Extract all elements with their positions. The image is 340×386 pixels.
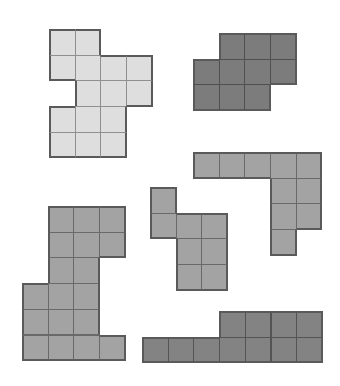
grid-cell bbox=[219, 84, 246, 111]
grid-cell bbox=[270, 33, 297, 60]
grid-cell bbox=[73, 257, 100, 284]
grid-cell bbox=[193, 337, 220, 364]
grid-cell bbox=[219, 33, 246, 60]
grid-cell bbox=[193, 84, 220, 111]
grid-cell bbox=[176, 264, 203, 291]
grid-cell bbox=[75, 55, 102, 82]
grid-cell bbox=[126, 80, 153, 107]
grid-cell bbox=[126, 55, 153, 82]
grid-cell bbox=[48, 257, 75, 284]
grid-cell bbox=[270, 178, 297, 205]
grid-cell bbox=[48, 335, 75, 362]
grid-cell bbox=[73, 283, 100, 310]
grid-cell bbox=[201, 213, 228, 240]
grid-cell bbox=[75, 106, 102, 133]
grid-cell bbox=[75, 132, 102, 159]
grid-cell bbox=[270, 229, 297, 256]
grid-cell bbox=[271, 311, 298, 338]
grid-cell bbox=[142, 337, 169, 364]
grid-cell bbox=[176, 213, 203, 240]
grid-cell bbox=[75, 80, 102, 107]
grid-cell bbox=[22, 309, 49, 336]
grid-cell bbox=[150, 187, 177, 214]
grid-cell bbox=[176, 238, 203, 265]
grid-cell bbox=[193, 59, 220, 86]
grid-cell bbox=[49, 106, 76, 133]
grid-cell bbox=[244, 84, 271, 111]
grid-cell bbox=[99, 232, 126, 259]
grid-cell bbox=[296, 337, 323, 364]
grid-cell bbox=[270, 152, 297, 179]
grid-cell bbox=[75, 29, 102, 56]
grid-cell bbox=[219, 152, 246, 179]
grid-cell bbox=[100, 106, 127, 133]
grid-cell bbox=[100, 80, 127, 107]
grid-cell bbox=[244, 152, 271, 179]
grid-cell bbox=[48, 309, 75, 336]
grid-cell bbox=[244, 33, 271, 60]
grid-cell bbox=[245, 311, 272, 338]
grid-cell bbox=[49, 29, 76, 56]
grid-cell bbox=[201, 238, 228, 265]
grid-cell bbox=[73, 309, 100, 336]
grid-cell bbox=[49, 55, 76, 82]
grid-cell bbox=[100, 132, 127, 159]
grid-cell bbox=[245, 337, 272, 364]
grid-cell bbox=[219, 311, 246, 338]
grid-cell bbox=[296, 311, 323, 338]
grid-cell bbox=[219, 59, 246, 86]
grid-cell bbox=[99, 206, 126, 233]
grid-cell bbox=[296, 203, 323, 230]
grid-cell bbox=[296, 152, 323, 179]
grid-cell bbox=[271, 337, 298, 364]
grid-cell bbox=[270, 203, 297, 230]
grid-cell bbox=[270, 59, 297, 86]
grid-cell bbox=[100, 55, 127, 82]
grid-cell bbox=[193, 152, 220, 179]
grid-cell bbox=[22, 283, 49, 310]
grid-cell bbox=[73, 232, 100, 259]
grid-cell bbox=[73, 206, 100, 233]
grid-cell bbox=[49, 132, 76, 159]
grid-cell bbox=[150, 213, 177, 240]
grid-cell bbox=[48, 283, 75, 310]
grid-cell bbox=[201, 264, 228, 291]
grid-cell bbox=[296, 178, 323, 205]
grid-cell bbox=[219, 337, 246, 364]
grid-cell bbox=[244, 59, 271, 86]
grid-cell bbox=[48, 232, 75, 259]
grid-cell bbox=[48, 206, 75, 233]
grid-cell bbox=[73, 335, 100, 362]
grid-cell bbox=[99, 335, 126, 362]
grid-cell bbox=[168, 337, 195, 364]
grid-cell bbox=[22, 335, 49, 362]
